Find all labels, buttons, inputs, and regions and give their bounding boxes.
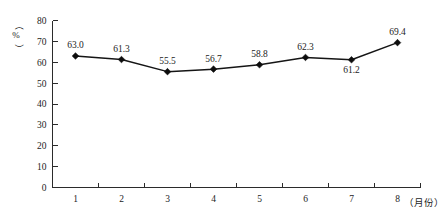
x-tick-label: 6 xyxy=(303,194,308,204)
y-tick-label: 0 xyxy=(42,183,47,193)
x-tick-label: 8 xyxy=(395,194,400,204)
data-point-marker xyxy=(118,56,125,63)
x-tick-label: 3 xyxy=(165,194,170,204)
chart-axes-line xyxy=(53,21,421,188)
x-tick-label: 5 xyxy=(257,194,262,204)
y-tick-label: 30 xyxy=(37,120,47,130)
x-tick-label: 1 xyxy=(73,194,78,204)
data-value-label: 61.3 xyxy=(113,44,130,54)
y-axis-unit-label: （%） xyxy=(12,21,24,53)
data-value-label: 62.3 xyxy=(297,42,314,52)
data-value-label: 61.2 xyxy=(343,65,360,75)
x-tick-label: 4 xyxy=(211,194,216,204)
data-point-marker xyxy=(256,61,263,68)
y-tick-label: 70 xyxy=(37,37,47,47)
y-tick-label: 20 xyxy=(37,141,47,151)
y-tick-label: 10 xyxy=(37,162,47,172)
data-point-marker xyxy=(348,56,355,63)
y-axis-tick-labels: 01020304050607080 xyxy=(37,16,47,193)
data-point-marker xyxy=(302,54,309,61)
line-chart: 01020304050607080 12345678 63.061.355.55… xyxy=(0,0,444,221)
data-value-label: 58.8 xyxy=(251,49,268,59)
data-point-marker xyxy=(210,66,217,73)
data-value-label: 56.7 xyxy=(205,54,222,64)
axes-group xyxy=(53,21,421,188)
data-value-label: 69.4 xyxy=(389,27,406,37)
data-point-marker xyxy=(164,68,171,75)
y-axis-ticks xyxy=(53,21,58,188)
x-axis-ticks xyxy=(53,183,421,188)
y-tick-label: 50 xyxy=(37,79,47,89)
data-value-labels: 63.061.355.556.758.862.361.269.4 xyxy=(67,27,406,75)
data-value-label: 55.5 xyxy=(159,56,176,66)
y-tick-label: 40 xyxy=(37,99,47,109)
x-tick-label: 7 xyxy=(349,194,354,204)
data-point-marker xyxy=(72,53,79,60)
y-unit-percent-symbol: % xyxy=(12,30,20,40)
chart-canvas: 01020304050607080 12345678 63.061.355.55… xyxy=(0,0,444,221)
data-point-marker xyxy=(394,39,401,46)
x-axis-tick-labels: 12345678 xyxy=(73,194,400,204)
y-unit-close-paren: ） xyxy=(14,44,24,53)
data-value-label: 63.0 xyxy=(67,40,84,50)
x-tick-label: 2 xyxy=(119,194,124,204)
y-tick-label: 60 xyxy=(37,58,47,68)
y-unit-open-paren: （ xyxy=(14,21,24,30)
x-axis-title: （月份） xyxy=(404,197,444,208)
y-tick-label: 80 xyxy=(37,16,47,26)
